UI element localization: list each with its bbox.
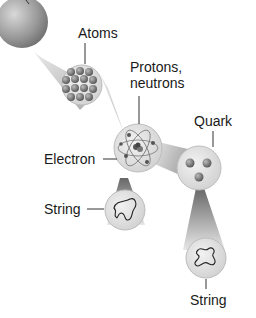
string-quark-disk (186, 238, 226, 278)
matter-sphere (0, 0, 48, 48)
nucleus-disk (114, 124, 162, 172)
quark-disk (177, 146, 221, 190)
string-quark-label: String (190, 292, 227, 308)
string-electron-label: String (44, 201, 81, 217)
atoms-disk (62, 65, 102, 105)
quark-label: Quark (194, 113, 233, 129)
atoms-label: Atoms (78, 25, 118, 41)
matter-scale-diagram: Atoms Protons, neutrons Electron (0, 0, 256, 318)
electron-label: Electron (44, 151, 95, 167)
nucleus-label-line1: Protons, (130, 59, 182, 75)
nucleus-label-line2: neutrons (130, 75, 184, 91)
string-electron-disk (105, 190, 145, 230)
